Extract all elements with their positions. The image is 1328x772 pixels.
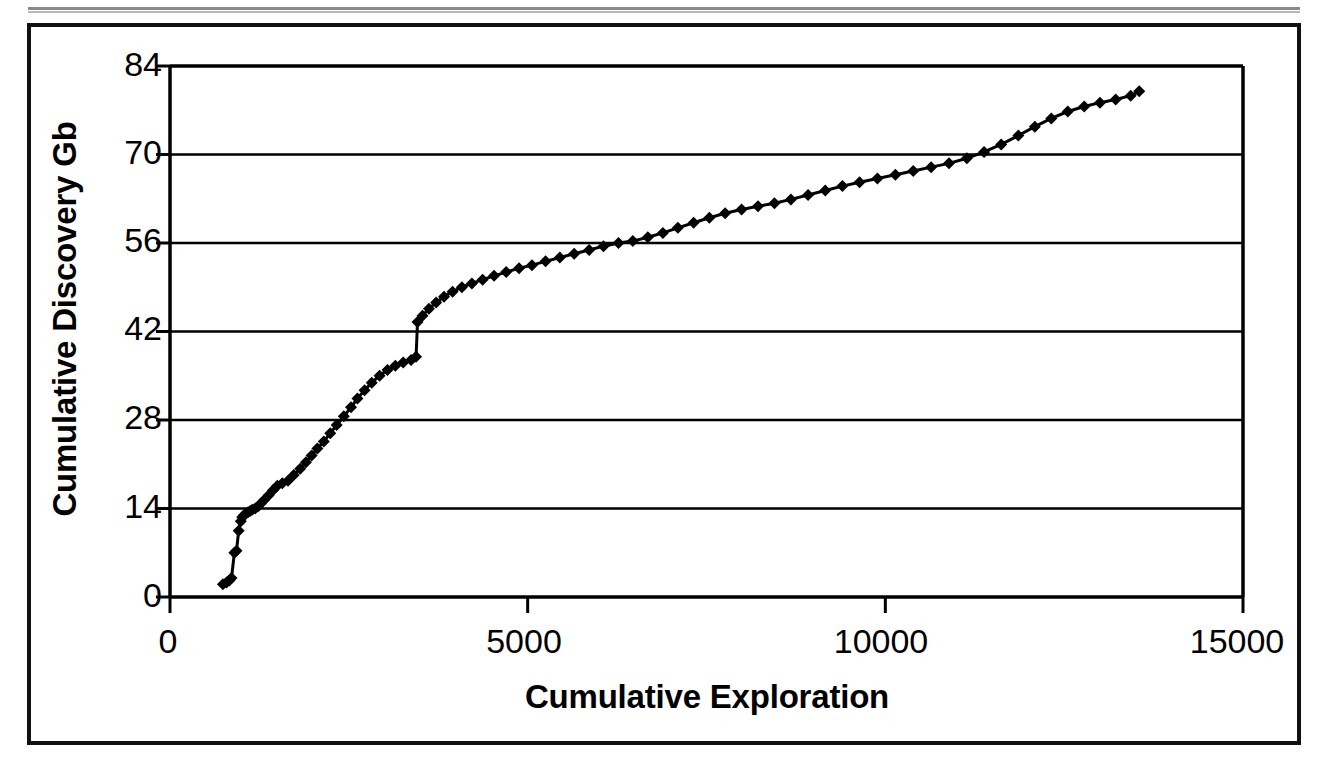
data-point [513,262,525,274]
data-point [657,227,669,239]
data-point [1062,106,1074,118]
chart-area: Cumulative Discovery Gb Cumulative Explo… [0,0,1328,772]
data-point [688,217,700,229]
data-point [785,193,797,205]
data-point [500,266,512,278]
data-point [233,525,245,537]
data-point [466,277,478,289]
data-point [703,212,715,224]
data-point [1094,97,1106,109]
data-point [854,176,866,188]
plot-svg [0,0,1328,772]
axis-ticks [156,66,1243,613]
series-markers [217,85,1145,590]
data-point [488,270,500,282]
data-point [642,231,654,243]
data-point [627,235,639,247]
data-point [943,157,955,169]
data-point [752,200,764,212]
series-line [223,91,1139,584]
data-point [613,237,625,249]
data-point [672,222,684,234]
data-point [540,255,552,267]
data-point [819,185,831,197]
data-point [836,180,848,192]
data-point [907,165,919,177]
data-point [568,248,580,260]
data-point [925,161,937,173]
data-point [768,197,780,209]
data-point [871,173,883,185]
data-point [526,259,538,271]
data-point [802,189,814,201]
data-point [554,252,566,264]
data-point [719,207,731,219]
data-point [1078,100,1090,112]
data-point [1029,121,1041,133]
data-point [889,169,901,181]
data-point [736,203,748,215]
data-point [583,244,595,256]
data-point [995,138,1007,150]
gridlines [170,66,1243,597]
data-point [978,146,990,158]
data-point [1012,130,1024,142]
data-point [1110,94,1122,106]
data-point [1045,112,1057,124]
data-point [477,274,489,286]
